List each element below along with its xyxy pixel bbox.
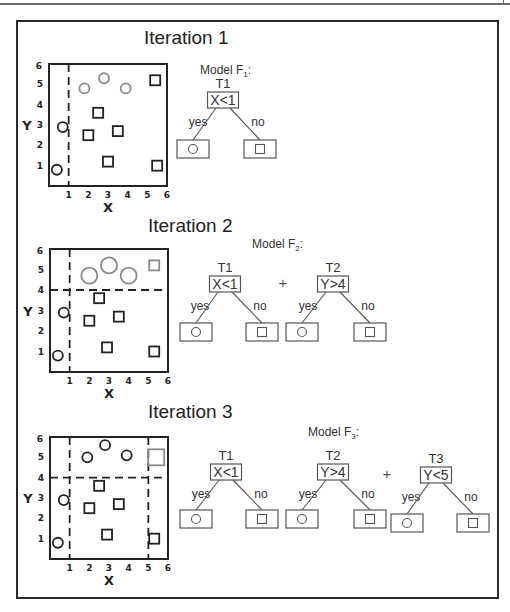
model-label: Model F3: [308, 425, 359, 441]
x-tick-label: 3 [106, 563, 112, 573]
square-point [114, 312, 124, 322]
split-condition: Y<5 [423, 467, 449, 483]
square-point [84, 316, 94, 326]
tree-t3: T3Y<5yesno+ [383, 451, 489, 532]
split-condition: X<1 [212, 276, 238, 292]
y-tick-label: 3 [38, 493, 44, 503]
yes-label: yes [192, 487, 211, 501]
square-point [84, 503, 94, 513]
x-tick-label: 6 [164, 190, 170, 200]
x-tick-label: 3 [106, 376, 112, 386]
yes-label: yes [402, 490, 421, 504]
circle-point [79, 83, 89, 93]
tree-name: T1 [217, 260, 232, 275]
iteration-2: Iteration 2 123456612345XY Model F2: T1X… [22, 215, 386, 401]
tree-t2: T2Y>4yesno+ [279, 260, 386, 341]
iteration-title: Iteration 1 [144, 27, 229, 48]
square-point [114, 499, 124, 509]
x-tick-label: 4 [126, 563, 132, 573]
circle-point [82, 452, 92, 462]
split-condition: X<1 [210, 92, 236, 108]
x-tick-label: 5 [145, 563, 151, 573]
y-tick-label: 1 [38, 347, 44, 357]
yes-label: yes [191, 299, 210, 313]
circle-point [58, 122, 68, 132]
square-point [83, 130, 93, 140]
no-leaf [457, 514, 489, 532]
no-label: no [254, 487, 268, 501]
y-tick-label: 5 [37, 79, 43, 89]
yes-leaf [286, 323, 318, 341]
circle-point [53, 538, 63, 548]
square-point [94, 293, 104, 303]
x-tick-label: 2 [86, 563, 92, 573]
scatter-plot: 123456612345XY [22, 246, 171, 401]
y-tick-label: 2 [38, 326, 44, 336]
circle-point [122, 450, 132, 460]
y-tick-label: 2 [38, 513, 44, 523]
plus-sign: + [279, 274, 288, 291]
x-tick-label: 2 [86, 376, 92, 386]
split-condition: X<1 [213, 464, 239, 480]
tree-name: T1 [218, 448, 233, 463]
y-tick-label: 3 [37, 120, 43, 130]
circle-point [101, 257, 117, 273]
gradient-boosting-diagram: Iteration 1 123456612345XY Model F1: T1X… [0, 0, 510, 612]
y-tick-label: 4 [38, 285, 44, 295]
y-tick-label: 6 [37, 434, 43, 444]
no-label: no [253, 299, 267, 313]
y-axis-label: Y [22, 491, 33, 506]
y-tick-label: 6 [36, 61, 42, 71]
no-label: no [361, 487, 375, 501]
y-tick-label: 5 [38, 265, 44, 275]
tree-t2: T2Y>4yesno [286, 448, 386, 528]
scatter-plot: 123456612345XY [22, 434, 171, 588]
x-axis-label: X [103, 200, 113, 215]
x-axis-label: X [104, 386, 114, 401]
square-point [149, 347, 159, 357]
circle-point [52, 165, 62, 175]
y-tick-label: 5 [38, 452, 44, 462]
x-tick-label: 6 [165, 563, 171, 573]
square-point [94, 481, 104, 491]
iteration-1: Iteration 1 123456612345XY Model F1: T1X… [21, 27, 276, 215]
iteration-3: Iteration 3 123456612345XY Model F3: T1X… [22, 401, 489, 588]
circle-point [81, 268, 97, 284]
x-tick-label: 5 [144, 190, 150, 200]
model-label: Model F2: [252, 237, 303, 253]
circle-point [99, 73, 109, 83]
x-tick-label: 4 [125, 190, 131, 200]
x-tick-label: 3 [105, 190, 111, 200]
square-point [113, 126, 123, 136]
y-tick-label: 4 [37, 100, 43, 110]
tree-name: T3 [428, 451, 443, 466]
x-tick-label: 6 [165, 376, 171, 386]
yes-label: yes [189, 115, 208, 129]
circle-point [100, 440, 110, 450]
tree-t1: T1X<1yesno [180, 448, 278, 528]
circle-point [53, 351, 63, 361]
x-tick-label: 1 [67, 563, 73, 573]
tree-t1: T1X<1yesno [177, 76, 276, 158]
x-axis-label: X [104, 573, 114, 588]
y-axis-label: Y [21, 118, 32, 133]
y-tick-label: 3 [38, 306, 44, 316]
square-point [150, 75, 160, 85]
square-point [103, 157, 113, 167]
x-tick-label: 4 [126, 376, 132, 386]
scatter-plot: 123456612345XY [21, 61, 170, 215]
tree-name: T2 [325, 448, 340, 463]
split-condition: Y>4 [320, 464, 346, 480]
circle-point [121, 83, 131, 93]
y-tick-label: 1 [37, 161, 43, 171]
split-condition: Y>4 [320, 276, 346, 292]
no-leaf [244, 140, 276, 158]
yes-label: yes [299, 487, 318, 501]
y-tick-label: 2 [37, 140, 43, 150]
square-point [148, 449, 164, 465]
circle-point [121, 268, 137, 284]
yes-leaf [286, 510, 318, 528]
tree-name: T2 [325, 260, 340, 275]
circle-point [59, 495, 69, 505]
y-axis-label: Y [22, 304, 33, 319]
